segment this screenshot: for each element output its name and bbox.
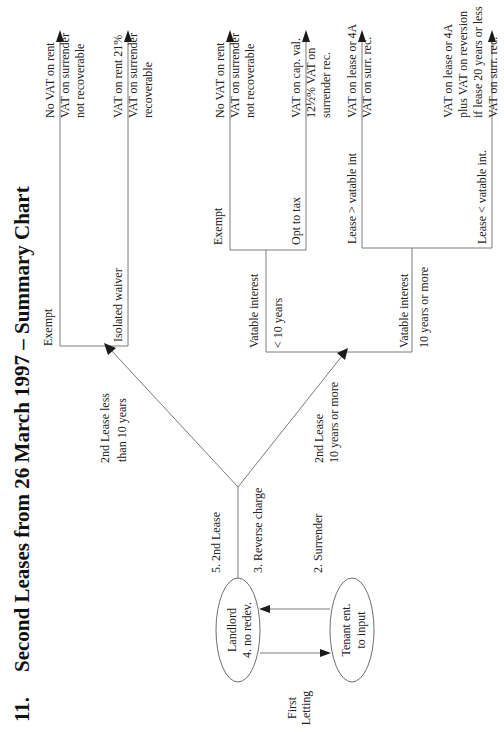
outcome-line: not recoverable [73, 44, 87, 118]
outcome-line: plus VAT on reversion [456, 11, 470, 118]
landlord-label: Landlord [225, 608, 239, 652]
decision-isolated-waiver: Isolated waiver [111, 268, 125, 342]
outcome-3: No VAT on rent VAT on surrender not reco… [213, 33, 257, 118]
first-letting-label: First [285, 696, 299, 719]
outcome-line: VAT on surrender [126, 33, 140, 118]
outcome-line: VAT on lease or 4A [441, 23, 455, 118]
outcome-line: VAT on surrender [228, 33, 242, 118]
outcome-line: not recoverable [243, 44, 257, 118]
outcome-line: No VAT on rent [213, 42, 227, 118]
outcome-line: VAT on surr. rec. [486, 37, 500, 118]
branch-short-line [110, 349, 238, 487]
outcome-5: VAT on lease or 4A VAT on surr. rec. [345, 23, 374, 118]
outcome-line: if lease 20 years or less [471, 6, 485, 118]
tenant-label: Tenant ent. [339, 603, 353, 656]
title-number: 11. [10, 697, 34, 722]
branch-short-label-2: than 10 years [115, 398, 129, 462]
chart-title: 11. Second Leases from 26 March 1997 – S… [10, 186, 34, 722]
outcome-line: No VAT on rent [43, 42, 57, 118]
outcome-1: No VAT on rent VAT on surrender not reco… [43, 33, 87, 118]
decision-vatable-ge10-years: 10 years or more [417, 267, 431, 348]
decision-opt-to-tax: Opt to tax [289, 197, 303, 245]
branch-long-label-2: 10 years or more [327, 382, 341, 463]
flow-diagram: 11. Second Leases from 26 March 1997 – S… [0, 0, 504, 732]
outcome-line: VAT on rent 21% [111, 35, 125, 118]
tenant-sublabel: to input [354, 611, 368, 649]
decision-lt10-exempt: Exempt [211, 207, 225, 245]
decision-lease-lt-vatable: Lease < vatable int. [475, 150, 489, 244]
step-reverse-charge: 3. Reverse charge [251, 488, 265, 573]
outcome-line: VAT on cap. val. [289, 38, 303, 118]
decision-vatable-lt10: Vatable interest [247, 273, 261, 348]
arrowhead-left-icon [259, 605, 270, 613]
summary-chart-page: 11. Second Leases from 26 March 1997 – S… [0, 0, 504, 732]
first-letting-label-2: Letting [299, 691, 313, 726]
outcome-line: 12½% VAT on [304, 48, 318, 118]
title-text: Second Leases from 26 March 1997 – Summa… [10, 186, 34, 672]
arrowhead-right-icon [320, 649, 331, 657]
step-surrender: 2. Surrender [311, 514, 325, 573]
branch-long-label: 2nd Lease [312, 414, 326, 463]
outcome-line: VAT on surr. rec. [360, 37, 374, 118]
decision-lease-gt-vatable: Lease > vatable int [345, 152, 359, 244]
step-second-lease: 5. 2nd Lease [209, 512, 223, 573]
branch-short-label: 2nd Lease less [98, 393, 112, 463]
outcome-2: VAT on rent 21% VAT on surrender recover… [111, 33, 155, 118]
landlord-sublabel: 4. no redev. [240, 602, 254, 658]
arrowhead-diagonal-icon [337, 348, 348, 360]
outcome-4: VAT on cap. val. 12½% VAT on surrender r… [289, 38, 333, 118]
outcome-line: surrender rec. [319, 52, 333, 118]
tenant-node: Tenant ent. to input [330, 578, 374, 682]
outcome-line: recoverable [141, 62, 155, 118]
outcome-line: VAT on lease or 4A [345, 23, 359, 118]
decision-short-exempt: Exempt [41, 308, 55, 346]
outcome-6: VAT on lease or 4A plus VAT on reversion… [441, 6, 500, 118]
decision-vatable-ge10: Vatable interest [397, 273, 411, 348]
landlord-node: Landlord 4. no redev. [216, 578, 260, 682]
arrowhead-up-icon [302, 30, 310, 42]
outcome-line: VAT on surrender [58, 33, 72, 118]
decision-vatable-lt10-years: < 10 years [271, 298, 285, 348]
